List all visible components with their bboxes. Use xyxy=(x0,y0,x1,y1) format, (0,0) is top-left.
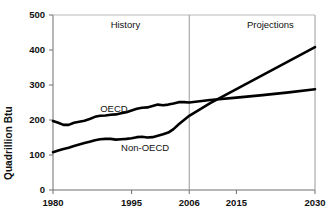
y-tick-label: 400 xyxy=(13,44,45,55)
annotation-oecd: OECD xyxy=(100,103,127,114)
y-tick-label: 100 xyxy=(13,149,45,160)
annotation-history: History xyxy=(111,19,141,30)
y-tick-label: 200 xyxy=(13,114,45,125)
x-tick-label: 1980 xyxy=(31,197,75,208)
y-tick-label: 0 xyxy=(13,184,45,195)
series-lines xyxy=(53,47,315,152)
annotation-projections: Projections xyxy=(247,19,294,30)
x-tick-label: 1995 xyxy=(110,197,154,208)
x-tick-label: 2006 xyxy=(167,197,211,208)
y-tick-label: 300 xyxy=(13,79,45,90)
y-axis-ticks xyxy=(49,15,53,190)
x-tick-label: 2030 xyxy=(293,197,331,208)
annotation-non-oecd: Non-OECD xyxy=(121,142,169,153)
x-axis-ticks xyxy=(53,190,315,194)
line-chart-canvas xyxy=(0,0,331,216)
chart-container: Quadrillion Btu 0100200300400500 1980199… xyxy=(0,0,331,216)
x-tick-label: 2015 xyxy=(214,197,258,208)
y-tick-label: 500 xyxy=(13,9,45,20)
